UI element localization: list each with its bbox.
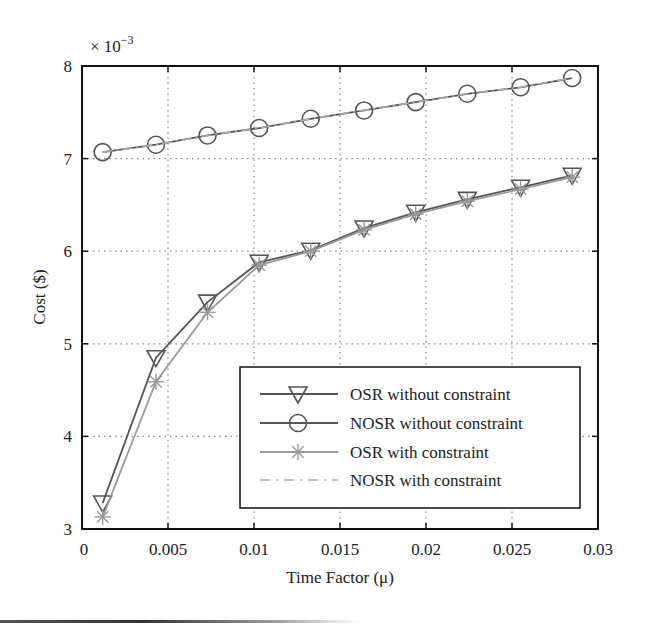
star-marker bbox=[200, 304, 216, 320]
star-marker bbox=[251, 257, 267, 273]
x-axis-title: Time Factor (μ) bbox=[286, 568, 394, 587]
star-marker bbox=[513, 181, 529, 197]
star-marker bbox=[356, 222, 372, 238]
star-marker bbox=[459, 193, 475, 209]
y-tick-label: 6 bbox=[64, 242, 73, 261]
y-tick-label: 5 bbox=[64, 335, 73, 354]
legend-label: NOSR without constraint bbox=[350, 414, 523, 433]
star-marker bbox=[148, 374, 164, 390]
y-axis-title: Cost ($) bbox=[30, 269, 49, 324]
star-marker bbox=[564, 169, 580, 185]
legend-label: OSR without constraint bbox=[350, 385, 511, 404]
y-axis-multiplier: × 10−3 bbox=[90, 33, 134, 56]
x-tick-label: 0.025 bbox=[493, 540, 531, 559]
x-tick-label: 0 bbox=[80, 540, 89, 559]
star-marker bbox=[95, 509, 111, 525]
legend: OSR without constraintNOSR without const… bbox=[240, 367, 580, 508]
y-tick-label: 7 bbox=[64, 150, 73, 169]
page-rule-divider bbox=[0, 620, 360, 623]
series-nosr-without-constraint bbox=[94, 70, 581, 161]
x-tick-label: 0.02 bbox=[411, 540, 441, 559]
x-tick-label: 0.01 bbox=[239, 540, 269, 559]
legend-label: NOSR with constraint bbox=[350, 471, 501, 490]
y-tick-label: 8 bbox=[64, 57, 73, 76]
x-tick-label: 0.015 bbox=[321, 540, 359, 559]
y-tick-label: 4 bbox=[64, 427, 73, 446]
x-tick-label: 0.03 bbox=[583, 540, 613, 559]
star-marker bbox=[408, 206, 424, 222]
star-marker bbox=[290, 444, 306, 460]
chart-canvas: 00.0050.010.0150.020.0250.03345678 × 10−… bbox=[0, 0, 645, 624]
legend-label: OSR with constraint bbox=[350, 443, 489, 462]
y-tick-label: 3 bbox=[64, 520, 73, 539]
x-tick-label: 0.005 bbox=[149, 540, 187, 559]
star-marker bbox=[303, 243, 319, 259]
